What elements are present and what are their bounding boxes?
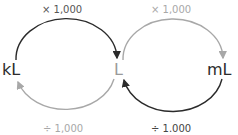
arc-ml-to-l [124,79,222,112]
unit-millilitre: mL [207,62,232,78]
arc-kl-to-l [16,19,117,60]
label-kl-to-l: × 1,000 [42,5,82,15]
arc-l-to-ml [123,19,223,60]
arc-l-to-kl [18,79,114,109]
unit-litre: L [114,62,123,78]
unit-kilolitre: kL [2,62,20,78]
label-l-to-kl: ÷ 1,000 [43,124,83,134]
label-l-to-ml: × 1,000 [151,5,191,15]
label-ml-to-l: ÷ 1.000 [151,124,191,134]
